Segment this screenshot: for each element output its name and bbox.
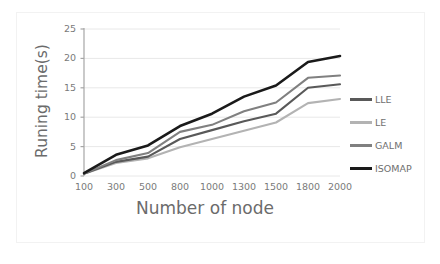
series-line-galm xyxy=(84,75,340,173)
y-axis xyxy=(81,28,85,176)
x-tick-label: 300 xyxy=(100,182,132,192)
y-tick-label: 0 xyxy=(50,171,76,181)
x-tick-label: 2000 xyxy=(324,182,356,192)
x-tick-label: 500 xyxy=(132,182,164,192)
legend-label: LE xyxy=(375,117,386,128)
x-tick-label: 800 xyxy=(164,182,196,192)
x-tick-label: 1000 xyxy=(196,182,228,192)
y-axis-title: Runing time(s) xyxy=(33,26,51,176)
legend-label: LLE xyxy=(375,94,392,105)
y-tick-label: 10 xyxy=(50,112,76,122)
x-axis-title: Number of node xyxy=(72,198,338,218)
legend-label: GALM xyxy=(375,140,402,151)
chart-figure: Runing time(s) Number of node 0510152025… xyxy=(0,0,440,264)
legend-swatch-le xyxy=(350,121,372,124)
series-line-isomap xyxy=(84,56,340,173)
x-tick-label: 1800 xyxy=(292,182,324,192)
legend-swatch-galm xyxy=(350,144,372,147)
x-tick-label: 1300 xyxy=(228,182,260,192)
legend-item[interactable]: LE xyxy=(350,111,434,134)
y-tick-label: 20 xyxy=(50,53,76,63)
legend-label: ISOMAP xyxy=(375,163,412,174)
x-tick-label: 1500 xyxy=(260,182,292,192)
x-tick-label: 100 xyxy=(68,182,100,192)
y-tick-label: 15 xyxy=(50,83,76,93)
legend-swatch-lle xyxy=(350,98,372,101)
series-line-lle xyxy=(84,84,340,173)
chart-legend: LLELEGALMISOMAP xyxy=(350,88,434,180)
y-tick-label: 5 xyxy=(50,142,76,152)
legend-item[interactable]: GALM xyxy=(350,134,434,157)
y-tick-label: 25 xyxy=(50,24,76,34)
legend-item[interactable]: LLE xyxy=(350,88,434,111)
legend-item[interactable]: ISOMAP xyxy=(350,157,434,180)
legend-swatch-isomap xyxy=(350,167,372,170)
series-line-le xyxy=(84,99,340,174)
